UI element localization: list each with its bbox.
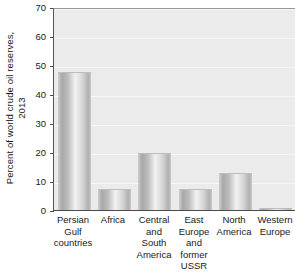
bar-chart: Percent of world crude oil reserves, 201… — [0, 0, 295, 275]
x-axis-category-label-line: Europe — [252, 226, 295, 238]
bar — [219, 173, 252, 211]
y-axis-title-text: Percent of world crude oil reserves, 201… — [4, 31, 27, 184]
y-axis-tick-label: 70 — [35, 3, 46, 13]
y-axis-tick-mark — [50, 211, 54, 212]
y-axis-title-line-1: Percent of world crude oil reserves, — [4, 31, 15, 184]
y-axis-tick-labels: 010203040506070 — [26, 0, 46, 215]
plot-area — [53, 8, 295, 211]
bar — [179, 189, 212, 211]
bar — [98, 189, 131, 211]
y-axis-tick-label: 60 — [35, 32, 46, 42]
y-axis-tick-label: 20 — [35, 148, 46, 158]
y-axis-tick-label: 0 — [41, 206, 46, 216]
y-axis-tick-label: 10 — [35, 177, 46, 187]
bar — [58, 72, 91, 211]
bar — [138, 153, 171, 211]
x-axis-category-labels: PersianGulfcountriesAfricaCentralandSout… — [53, 214, 295, 275]
y-axis-tick-label: 50 — [35, 61, 46, 71]
bar-series — [54, 9, 295, 211]
y-axis-tick-label: 30 — [35, 119, 46, 129]
x-axis-category-label-line: Africa — [90, 214, 136, 226]
x-axis-category-label-line: Western — [252, 214, 295, 226]
x-axis-category-label-line: former — [171, 249, 217, 261]
y-axis-tick-label: 40 — [35, 90, 46, 100]
x-axis-category-label: WesternEurope — [252, 214, 295, 237]
x-axis-category-label-line: America — [211, 226, 257, 238]
x-axis-category-label-line: North — [211, 214, 257, 226]
x-axis-category-label-line: and — [171, 237, 217, 249]
x-axis-category-label: Africa — [90, 214, 136, 226]
x-axis-category-label-line: USSR — [171, 260, 217, 272]
x-axis-line — [53, 210, 295, 211]
x-axis-category-label-line: countries — [50, 237, 96, 249]
x-axis-category-label-line: Gulf — [50, 226, 96, 238]
y-axis-title-line-2: 2013 — [15, 31, 27, 184]
x-axis-category-label: NorthAmerica — [211, 214, 257, 237]
